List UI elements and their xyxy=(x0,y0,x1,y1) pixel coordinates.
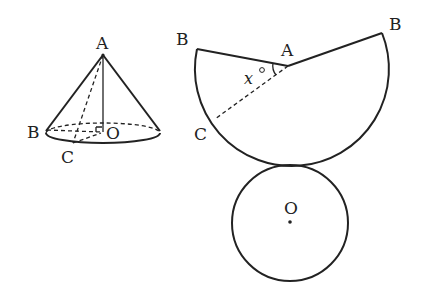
net-base-circle: O xyxy=(232,165,348,281)
diagram-svg: A B O C A B B C x O xyxy=(0,0,427,290)
label-cone-A: A xyxy=(95,33,109,53)
apex-point xyxy=(101,53,104,56)
label-circle-O: O xyxy=(284,198,298,218)
angle-arc-icon xyxy=(273,63,276,75)
label-sector-C: C xyxy=(194,124,207,144)
cone-base-front-arc xyxy=(46,133,160,143)
net-sector: A B B C x xyxy=(176,14,402,166)
cone-slant-left xyxy=(46,55,103,131)
diagram-canvas: A B O C A B B C x O xyxy=(0,0,427,290)
sector-radius-AB-left xyxy=(197,49,288,66)
label-angle-x: x xyxy=(244,69,253,88)
label-sector-A: A xyxy=(280,40,294,60)
cone-figure: A B O C xyxy=(27,33,160,167)
label-sector-B-left: B xyxy=(176,29,189,49)
degree-symbol-icon xyxy=(260,68,265,73)
label-cone-C: C xyxy=(61,147,74,167)
label-cone-B: B xyxy=(27,122,40,142)
cone-segment-AC xyxy=(73,55,103,143)
label-sector-B-right: B xyxy=(389,14,402,34)
label-cone-O: O xyxy=(106,123,120,143)
cone-radius-BO xyxy=(47,130,101,132)
cone-slant-right xyxy=(103,55,160,131)
sector-radius-AB-right xyxy=(288,33,382,66)
circle-center-point xyxy=(288,220,292,224)
